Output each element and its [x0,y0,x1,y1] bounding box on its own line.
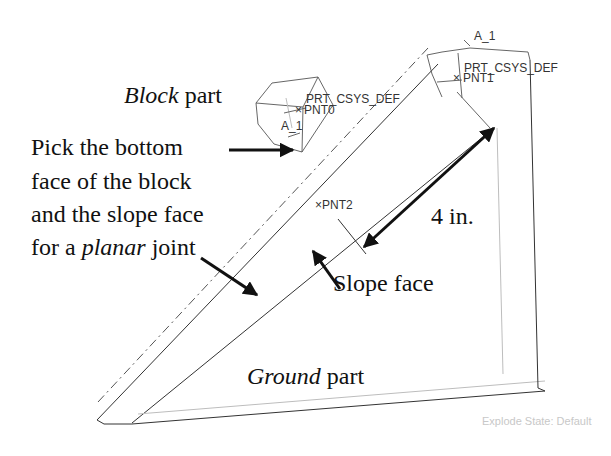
instruction-italic: planar [80,234,147,260]
instruction-prefix: for a [31,234,82,260]
slope-face-label: Slope face [333,270,434,296]
point-marker-icon: × [453,71,460,85]
ground-axis-label: A_1 [474,29,496,43]
slope-point-label: ×PNT2 [315,198,353,212]
ground-part-label: Ground part [247,363,364,389]
dimension-arrow [364,128,494,247]
block-part-label-rest: part [179,82,223,108]
ground-part-label-italic: Ground [247,363,322,389]
block-part-label: Block part [124,82,222,108]
back-hidden-edge [497,128,503,374]
block-part-label-italic: Block [124,82,179,108]
ground-top-feature: A_1 PRT_CSYS_DEF PNT1 × [427,29,558,128]
bottom-edge [97,391,545,424]
corner-edge [538,388,545,391]
point-marker-icon: × [315,198,322,212]
axis-tick [464,40,470,46]
instruction-line-2: face of the block [31,168,192,194]
csys-axis-diag [457,92,490,128]
slope-point-name: PNT2 [322,198,353,212]
block-point-label: PNT0 [304,103,335,117]
block-axis-label: A_1 [281,119,303,133]
explode-state-status: Explode State: Default [482,415,591,427]
instruction-line-3: and the slope face [31,201,204,227]
top-left-edge [427,55,442,97]
slope-face-arrow-from-instruction [201,258,257,295]
cad-assembly-figure: A_1 PRT_CSYS_DEF PNT1 × PRT_CSYS_DEF PNT… [0,0,611,456]
ground-part-label-rest: part [321,363,365,389]
block-part-geometry: PRT_CSYS_DEF PNT0 × A_1 [256,77,400,152]
instruction-line-4: for a planar joint [31,234,196,260]
dimension-label: 4 in. [431,203,474,229]
block-bottom-face-mark [288,133,300,137]
instruction-line-1: Pick the bottom [31,134,183,160]
ground-point-label: PNT1 [463,71,494,85]
back-vertical-edge [530,60,538,388]
point-marker-icon: × [295,103,302,117]
dimension-extension-line [338,219,366,254]
top-face-edge [427,48,530,60]
instruction-suffix: joint [146,234,196,260]
instruction-text: Pick the bottom face of the block and th… [31,134,204,260]
